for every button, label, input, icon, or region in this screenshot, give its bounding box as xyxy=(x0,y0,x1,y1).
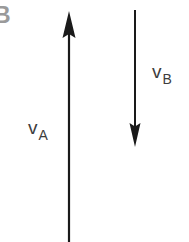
velocity-vector-diagram: B vA vB xyxy=(0,0,189,242)
figure-part-marker: B xyxy=(0,4,11,27)
label-vb-base: v xyxy=(152,61,162,82)
label-vb-subscript: B xyxy=(163,71,172,87)
label-va-base: v xyxy=(28,117,38,138)
label-vb: vB xyxy=(152,62,171,81)
label-va: vA xyxy=(28,118,47,137)
label-va-subscript: A xyxy=(39,127,48,143)
